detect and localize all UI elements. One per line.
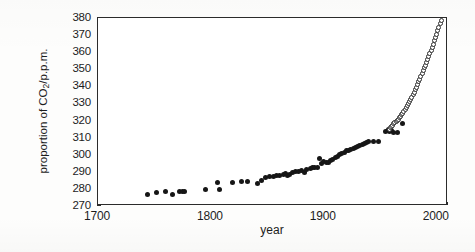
data-point-filled [245,179,250,184]
x-tick-label: 2000 [423,209,449,223]
data-point-filled [230,180,235,185]
data-point-filled [400,121,405,126]
y-axis-title: proportion of CO2/p.p.m. [37,49,51,174]
data-point-filled [182,189,187,194]
x-minor-tick-mark [447,202,448,205]
data-point-filled [145,192,150,197]
data-point-filled [217,187,222,192]
data-point-filled [203,187,208,192]
data-point-filled [163,189,168,194]
y-tick-label: 280 [72,182,91,194]
x-tick-label: 1700 [84,209,110,223]
y-tick-label: 290 [72,165,91,177]
y-tick-label: 300 [72,148,91,160]
data-point-filled [395,130,400,135]
data-point-filled [315,165,320,170]
data-point-filled [154,190,159,195]
y-axis-title-subscript: 2 [41,84,51,89]
data-point-filled [170,192,175,197]
y-tick-label: 320 [72,114,91,126]
data-points-layer [98,18,446,204]
y-tick-label: 360 [72,45,91,57]
data-point-open [439,18,444,23]
data-point-filled [239,179,244,184]
x-axis-title: year [260,223,283,237]
y-tick-label: 310 [72,131,91,143]
y-tick-label: 370 [72,28,91,40]
y-tick-mark [97,205,101,206]
y-tick-label: 330 [72,96,91,108]
data-point-filled [376,139,381,144]
y-tick-label: 380 [72,11,91,23]
x-tick-label: 1800 [197,209,223,223]
y-axis-title-suffix: /p.p.m. [37,49,49,84]
y-tick-label: 340 [72,79,91,91]
x-tick-label: 1900 [310,209,336,223]
plot-area-frame [97,17,447,205]
y-axis-title-prefix: proportion of CO [37,88,49,173]
data-point-filled [215,180,220,185]
y-tick-label: 350 [72,62,91,74]
co2-concentration-chart: proportion of CO2/p.p.m. year 2702802903… [0,0,475,252]
